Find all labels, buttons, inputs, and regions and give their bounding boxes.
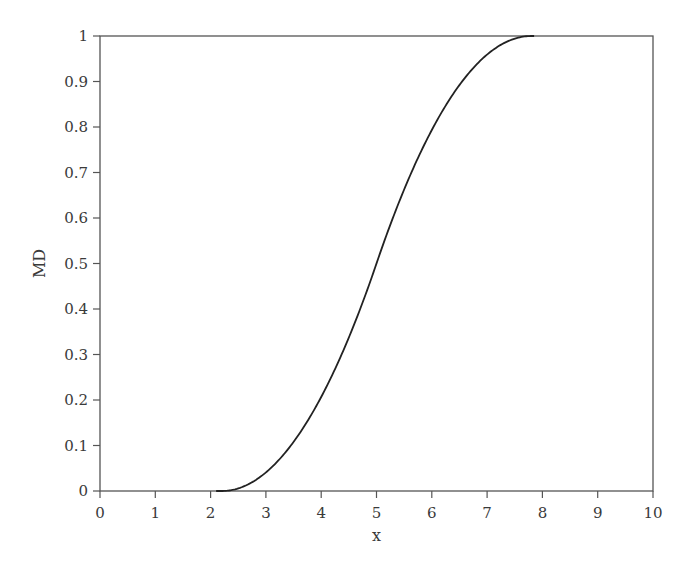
x-tick-label: 5 <box>372 504 382 522</box>
x-tick-label: 6 <box>427 504 437 522</box>
y-axis-label: MD <box>30 249 49 278</box>
y-tick-label: 0.7 <box>64 164 88 182</box>
x-tick-label: 9 <box>593 504 603 522</box>
x-tick-label: 3 <box>261 504 271 522</box>
y-tick-label: 0.2 <box>64 391 88 409</box>
y-tick-label: 0.6 <box>64 209 88 227</box>
x-tick-label: 1 <box>151 504 161 522</box>
x-tick-label: 7 <box>482 504 492 522</box>
x-tick-label: 4 <box>316 504 326 522</box>
x-axis-label: x <box>372 526 381 545</box>
chart: 012345678910 00.10.20.30.40.50.60.70.80.… <box>0 0 690 574</box>
x-axis-ticks: 012345678910 <box>95 491 662 522</box>
x-tick-label: 2 <box>206 504 216 522</box>
y-tick-label: 0.9 <box>64 73 88 91</box>
y-tick-label: 0.5 <box>64 255 88 273</box>
y-tick-label: 1 <box>78 27 88 45</box>
y-tick-label: 0.8 <box>64 118 88 136</box>
y-tick-label: 0.4 <box>64 300 88 318</box>
y-axis-ticks: 00.10.20.30.40.50.60.70.80.91 <box>64 27 100 500</box>
y-tick-label: 0 <box>78 482 88 500</box>
x-tick-label: 8 <box>538 504 548 522</box>
y-tick-label: 0.3 <box>64 346 88 364</box>
x-tick-label: 0 <box>95 504 105 522</box>
y-tick-label: 0.1 <box>64 437 88 455</box>
md-curve <box>216 36 534 491</box>
x-tick-label: 10 <box>643 504 662 522</box>
